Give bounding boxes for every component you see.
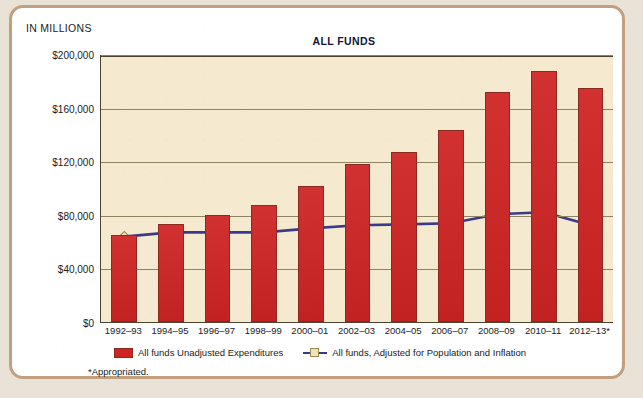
legend-item-adjusted: All funds, Adjusted for Population and I… xyxy=(303,347,526,358)
y-axis-tick-label: $160,000 xyxy=(52,103,94,114)
bar xyxy=(251,205,277,322)
x-axis-tick-label: 2006–07 xyxy=(431,325,468,336)
y-axis-tick-label: $80,000 xyxy=(58,210,94,221)
x-axis-tick-label: 1998–99 xyxy=(245,325,282,336)
bar xyxy=(158,224,184,322)
page-title: ALL FUNDS xyxy=(12,35,628,47)
figure: IN MILLIONS ALL FUNDS $0$40,000$80,000$1… xyxy=(12,8,628,382)
chart-card: IN MILLIONS ALL FUNDS $0$40,000$80,000$1… xyxy=(9,5,625,379)
x-axis-tick-label: 1992–93 xyxy=(105,325,142,336)
gridline xyxy=(101,55,613,56)
y-axis-tick-label: $0 xyxy=(83,318,94,329)
y-axis-unit-label: IN MILLIONS xyxy=(26,22,92,34)
bar xyxy=(438,130,464,322)
red-square-swatch-icon xyxy=(114,348,133,358)
x-axis-tick-label: 1996–97 xyxy=(198,325,235,336)
bar xyxy=(205,215,231,322)
footnote: *Appropriated. xyxy=(88,366,149,377)
line-marker-swatch-icon xyxy=(303,348,327,357)
legend-label-adjusted: All funds, Adjusted for Population and I… xyxy=(332,347,526,358)
legend-item-unadjusted: All funds Unadjusted Expenditures xyxy=(114,347,283,358)
chart-title-text: ALL FUNDS xyxy=(313,35,376,47)
legend-label-unadjusted: All funds Unadjusted Expenditures xyxy=(138,347,283,358)
x-axis-tick-label: 2010–11 xyxy=(525,325,561,336)
x-axis-tick-label: 2000–01 xyxy=(291,325,328,336)
legend: All funds Unadjusted Expenditures All fu… xyxy=(12,347,628,358)
y-axis: $0$40,000$80,000$120,000$160,000$200,000 xyxy=(12,55,98,323)
x-axis-tick-label: 1994–95 xyxy=(151,325,188,336)
plot-area xyxy=(100,55,613,323)
y-axis-tick-label: $120,000 xyxy=(52,157,94,168)
bar xyxy=(345,164,371,322)
x-axis-tick-label: 2004–05 xyxy=(385,325,422,336)
screenshot-page: IN MILLIONS ALL FUNDS $0$40,000$80,000$1… xyxy=(0,0,643,398)
bar xyxy=(298,186,324,322)
y-axis-tick-label: $40,000 xyxy=(58,264,94,275)
x-axis-tick-label: 2012–13* xyxy=(569,325,610,336)
x-axis-tick-label: 2008–09 xyxy=(478,325,515,336)
bar xyxy=(578,88,604,322)
x-axis: 1992–931994–951996–971998–992000–012002–… xyxy=(100,325,613,341)
y-axis-tick-label: $200,000 xyxy=(52,50,94,61)
x-axis-tick-label: 2002–03 xyxy=(338,325,375,336)
bar xyxy=(531,71,557,322)
bar xyxy=(111,235,137,323)
bar xyxy=(391,152,417,322)
bar xyxy=(485,92,511,322)
